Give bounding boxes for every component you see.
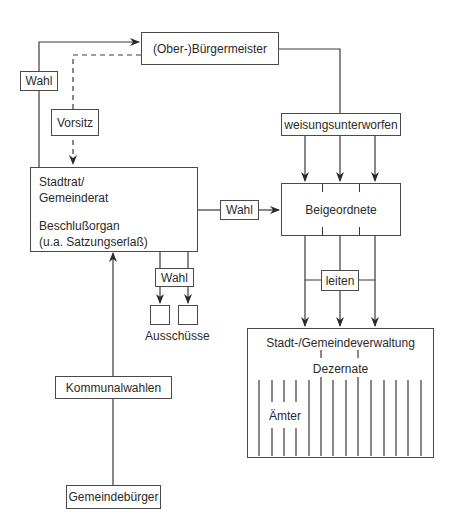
leiten-text: leiten — [326, 274, 355, 288]
dezernate-label: Dezernate — [248, 362, 433, 376]
beigeordnete-node: Beigeordnete — [281, 183, 401, 236]
vorsitz-label: Vorsitz — [51, 109, 99, 136]
vorsitz-text: Vorsitz — [57, 116, 93, 130]
leiten-label: leiten — [321, 270, 359, 291]
kommunalwahlen-node: Kommunalwahlen — [55, 376, 172, 399]
wahl-text: Wahl — [26, 74, 53, 88]
buergermeister-node: (Ober-)Bürgermeister — [141, 32, 279, 65]
stadtrat-line3: Beschlußorgan — [39, 218, 148, 234]
ausschuss-box-2 — [178, 305, 198, 325]
ausschuss-box-1 — [150, 305, 170, 325]
stadtrat-line4: (u.a. Satzungserlaß) — [39, 234, 148, 250]
gemeindebuerger-node: Gemeindebürger — [66, 485, 161, 509]
kommunalwahlen-label: Kommunalwahlen — [66, 381, 161, 395]
buergermeister-label: (Ober-)Bürgermeister — [153, 42, 267, 56]
aemter-label: Ämter — [269, 409, 301, 423]
stadtrat-line2: Gemeinderat — [39, 190, 148, 206]
stadtrat-node: Stadtrat/ Gemeinderat Beschlußorgan (u.a… — [30, 167, 198, 252]
wahl-label-beigeordnete: Wahl — [220, 200, 259, 220]
weisungsunterworfen-label: weisungsunterworfen — [281, 113, 401, 136]
gemeindebuerger-label: Gemeindebürger — [68, 490, 158, 504]
wahl-text: Wahl — [161, 271, 188, 285]
ausschuesse-label: Ausschüsse — [145, 329, 210, 343]
weisungsunterworfen-text: weisungsunterworfen — [284, 118, 397, 132]
beigeordnete-label: Beigeordnete — [305, 203, 376, 217]
wahl-label-ausschuesse: Wahl — [155, 268, 194, 287]
verwaltung-label: Stadt-/Gemeindeverwaltung — [248, 336, 433, 350]
wahl-text: Wahl — [226, 203, 253, 217]
verwaltung-node: Stadt-/Gemeindeverwaltung Dezernate Ämte… — [247, 328, 434, 458]
wahl-label-buergermeister: Wahl — [20, 71, 58, 91]
stadtrat-line1: Stadtrat/ — [39, 174, 148, 190]
